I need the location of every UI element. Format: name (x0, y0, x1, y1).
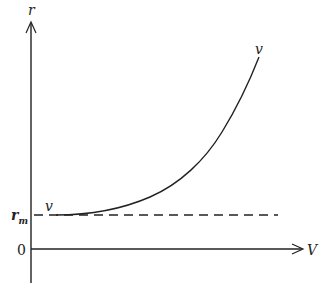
curve-v (56, 57, 259, 215)
asymptote-label-subscript: m (18, 216, 28, 226)
curve-label-end: v (255, 42, 263, 56)
origin-label: 0 (17, 243, 26, 257)
asymptote-label: rm (11, 208, 28, 226)
diagram-canvas (0, 0, 331, 296)
diagram-figure: r V 0 rm v v (0, 0, 331, 296)
y-axis-label: r (28, 3, 35, 17)
x-axis-label: V (307, 243, 317, 257)
curve-label-start: v (45, 199, 53, 213)
